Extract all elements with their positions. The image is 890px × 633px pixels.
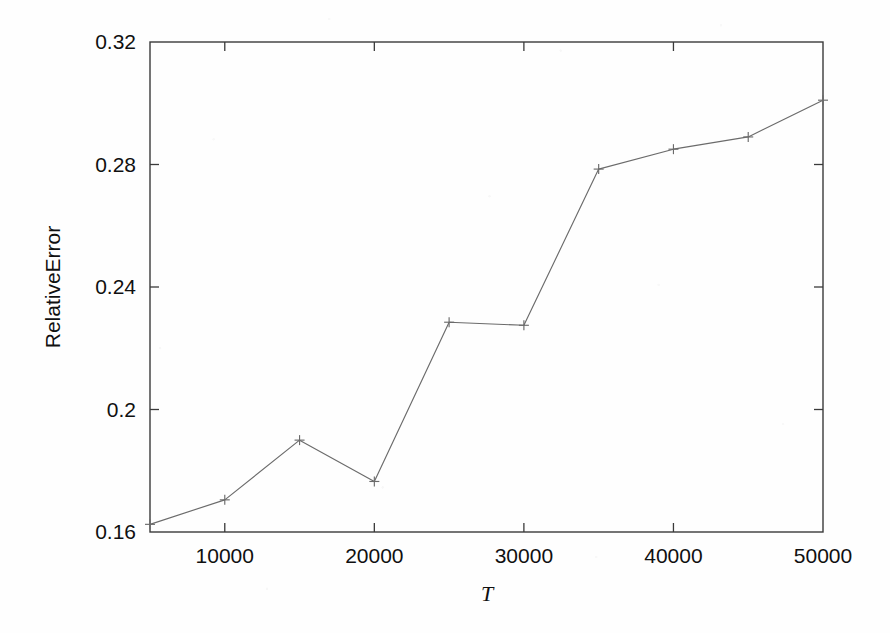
chart-figure: 1000020000300004000050000 0.160.20.240.2… xyxy=(0,0,890,633)
x-tick-label: 10000 xyxy=(196,544,254,567)
data-point-marker xyxy=(369,476,379,486)
data-point-marker xyxy=(818,95,828,105)
x-axis-ticks-bottom xyxy=(225,523,674,532)
x-tick-label: 40000 xyxy=(644,544,702,567)
y-axis-ticks-left xyxy=(150,165,159,410)
x-axis-ticks-top xyxy=(225,42,674,51)
plot-frame xyxy=(150,42,823,532)
data-point-marker xyxy=(743,132,753,142)
y-tick-label: 0.28 xyxy=(95,153,136,176)
y-tick-label: 0.2 xyxy=(107,398,136,421)
data-point-marker xyxy=(519,320,529,330)
y-axis-title: RelativeError xyxy=(41,226,64,349)
x-axis-title: T xyxy=(481,581,495,606)
data-point-marker xyxy=(444,317,454,327)
data-point-marker xyxy=(145,519,155,529)
data-point-marker xyxy=(668,144,678,154)
x-tick-label: 30000 xyxy=(495,544,553,567)
y-tick-label: 0.16 xyxy=(95,520,136,543)
y-axis-tick-labels: 0.160.20.240.280.32 xyxy=(95,30,136,543)
y-axis-ticks-right xyxy=(814,165,823,410)
y-tick-label: 0.32 xyxy=(95,30,136,53)
x-tick-label: 20000 xyxy=(345,544,403,567)
x-axis-tick-labels: 1000020000300004000050000 xyxy=(196,544,853,567)
x-tick-label: 50000 xyxy=(794,544,852,567)
data-series-line xyxy=(150,100,823,524)
relative-error-line-chart: 1000020000300004000050000 0.160.20.240.2… xyxy=(0,0,890,633)
y-tick-label: 0.24 xyxy=(95,275,136,298)
data-point-markers xyxy=(145,95,828,529)
data-point-marker xyxy=(594,164,604,174)
